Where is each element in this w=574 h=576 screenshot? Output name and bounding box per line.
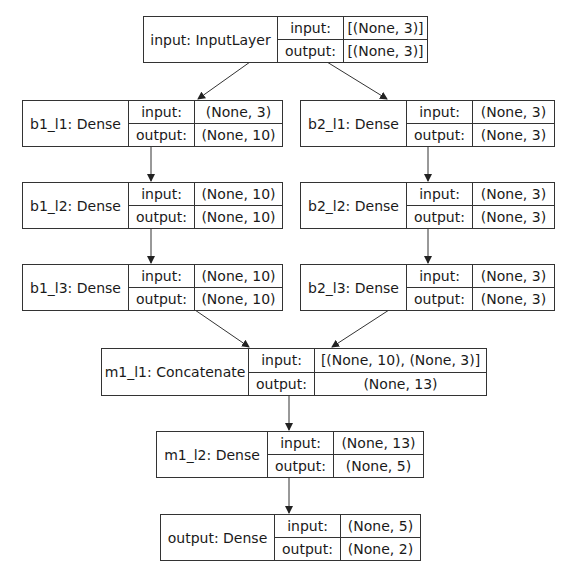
input-label: input: — [249, 349, 314, 373]
node-name: b2_l1: Dense — [301, 101, 407, 146]
output-label: output: — [278, 40, 343, 62]
edge-input-b1_l1 — [198, 62, 250, 99]
node-name: m1_l1: Concatenate — [102, 349, 249, 395]
output-label: output: — [407, 124, 472, 146]
node-name: output: Dense — [161, 515, 275, 560]
input-label: input: — [129, 265, 194, 288]
output-shape: [(None, 3)] — [344, 40, 427, 62]
input-label: input: — [129, 101, 194, 124]
output-shape: (None, 3) — [473, 124, 554, 146]
input-shape: (None, 3) — [195, 101, 282, 124]
input-shape: (None, 13) — [334, 432, 423, 455]
node-input[interactable]: input: InputLayer input: output: [(None,… — [143, 16, 428, 63]
input-label: input: — [268, 432, 333, 455]
input-label: input: — [407, 183, 472, 206]
output-label: output: — [407, 206, 472, 228]
output-label: output: — [129, 206, 194, 228]
input-shape: [(None, 3)] — [344, 17, 427, 40]
output-shape: (None, 10) — [195, 288, 282, 310]
node-b2_l3[interactable]: b2_l3: Dense input: output: (None, 3) (N… — [300, 264, 555, 311]
output-label: output: — [129, 288, 194, 310]
input-shape: (None, 3) — [473, 265, 554, 288]
edge-b1_l3-m1_l1 — [195, 310, 249, 347]
edge-input-b2_l1 — [327, 62, 387, 99]
input-label: input: — [278, 17, 343, 40]
output-label: output: — [407, 288, 472, 310]
node-name: m1_l2: Dense — [157, 432, 268, 477]
input-shape: (None, 3) — [473, 101, 554, 124]
input-shape: [(None, 10), (None, 3)] — [315, 349, 486, 373]
node-name: b1_l2: Dense — [23, 183, 129, 228]
output-label: output: — [249, 373, 314, 396]
node-b1_l2[interactable]: b1_l2: Dense input: output: (None, 10) (… — [22, 182, 283, 229]
input-shape: (None, 10) — [195, 265, 282, 288]
output-shape: (None, 10) — [195, 206, 282, 228]
node-output[interactable]: output: Dense input: output: (None, 5) (… — [160, 514, 421, 561]
output-label: output: — [275, 538, 340, 560]
node-name: b2_l3: Dense — [301, 265, 407, 310]
output-label: output: — [268, 455, 333, 477]
node-b1_l1[interactable]: b1_l1: Dense input: output: (None, 3) (N… — [22, 100, 283, 147]
input-shape: (None, 5) — [341, 515, 420, 538]
node-b2_l2[interactable]: b2_l2: Dense input: output: (None, 3) (N… — [300, 182, 555, 229]
output-label: output: — [129, 124, 194, 146]
input-label: input: — [407, 265, 472, 288]
output-shape: (None, 13) — [315, 373, 486, 396]
input-label: input: — [129, 183, 194, 206]
node-name: b1_l1: Dense — [23, 101, 129, 146]
input-label: input: — [407, 101, 472, 124]
input-label: input: — [275, 515, 340, 538]
output-shape: (None, 2) — [341, 538, 420, 560]
output-shape: (None, 3) — [473, 206, 554, 228]
node-m1_l1[interactable]: m1_l1: Concatenate input: output: [(None… — [101, 348, 487, 396]
output-shape: (None, 5) — [334, 455, 423, 477]
node-b2_l1[interactable]: b2_l1: Dense input: output: (None, 3) (N… — [300, 100, 555, 147]
node-b1_l3[interactable]: b1_l3: Dense input: output: (None, 10) (… — [22, 264, 283, 311]
model-diagram: input: InputLayer input: output: [(None,… — [0, 0, 574, 576]
edge-b2_l3-m1_l1 — [332, 310, 389, 347]
node-name: b2_l2: Dense — [301, 183, 407, 228]
output-shape: (None, 3) — [473, 288, 554, 310]
node-name: b1_l3: Dense — [23, 265, 129, 310]
input-shape: (None, 3) — [473, 183, 554, 206]
output-shape: (None, 10) — [195, 124, 282, 146]
node-name: input: InputLayer — [144, 17, 278, 62]
node-m1_l2[interactable]: m1_l2: Dense input: output: (None, 13) (… — [156, 431, 424, 478]
input-shape: (None, 10) — [195, 183, 282, 206]
